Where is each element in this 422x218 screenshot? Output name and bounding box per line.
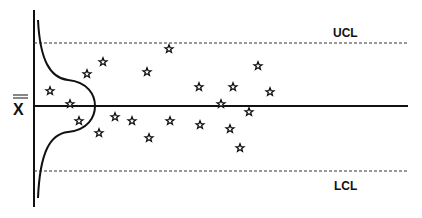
star-marker-icon bbox=[111, 113, 119, 121]
data-points bbox=[46, 45, 274, 152]
star-marker-icon bbox=[229, 83, 237, 91]
star-marker-icon bbox=[196, 121, 204, 129]
star-marker-icon bbox=[83, 70, 91, 78]
chart-canvas: UCL LCL X bbox=[0, 0, 422, 218]
star-marker-icon bbox=[143, 68, 151, 76]
star-marker-icon bbox=[217, 100, 225, 108]
star-marker-icon bbox=[99, 58, 107, 66]
star-marker-icon bbox=[66, 100, 74, 108]
star-marker-icon bbox=[166, 117, 174, 125]
star-marker-icon bbox=[128, 117, 136, 125]
control-chart: UCL LCL X bbox=[0, 0, 422, 218]
star-marker-icon bbox=[46, 87, 54, 95]
star-marker-icon bbox=[75, 117, 83, 125]
star-marker-icon bbox=[95, 129, 103, 137]
star-marker-icon bbox=[226, 125, 234, 133]
star-marker-icon bbox=[195, 83, 203, 91]
center-label: X bbox=[13, 101, 24, 118]
star-marker-icon bbox=[165, 45, 173, 53]
star-marker-icon bbox=[254, 62, 262, 70]
star-marker-icon bbox=[245, 108, 253, 116]
lcl-label: LCL bbox=[334, 179, 357, 193]
star-marker-icon bbox=[236, 144, 244, 152]
ucl-label: UCL bbox=[333, 26, 358, 40]
star-marker-icon bbox=[266, 88, 274, 96]
star-marker-icon bbox=[145, 134, 153, 142]
